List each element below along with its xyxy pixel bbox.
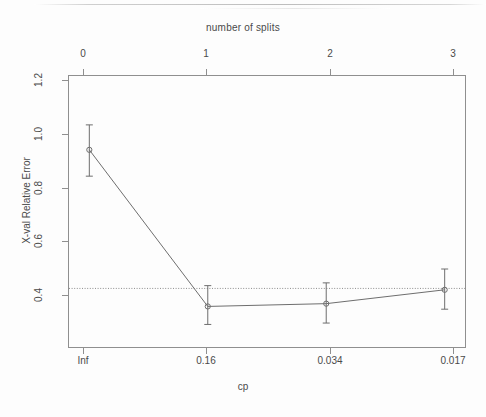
chart-data-layer — [0, 0, 486, 417]
figure-canvas: number of splits cp X-val Relative Error… — [0, 0, 486, 417]
errorbar-group — [86, 125, 448, 325]
series-line — [89, 150, 444, 307]
series-markers — [87, 147, 448, 309]
